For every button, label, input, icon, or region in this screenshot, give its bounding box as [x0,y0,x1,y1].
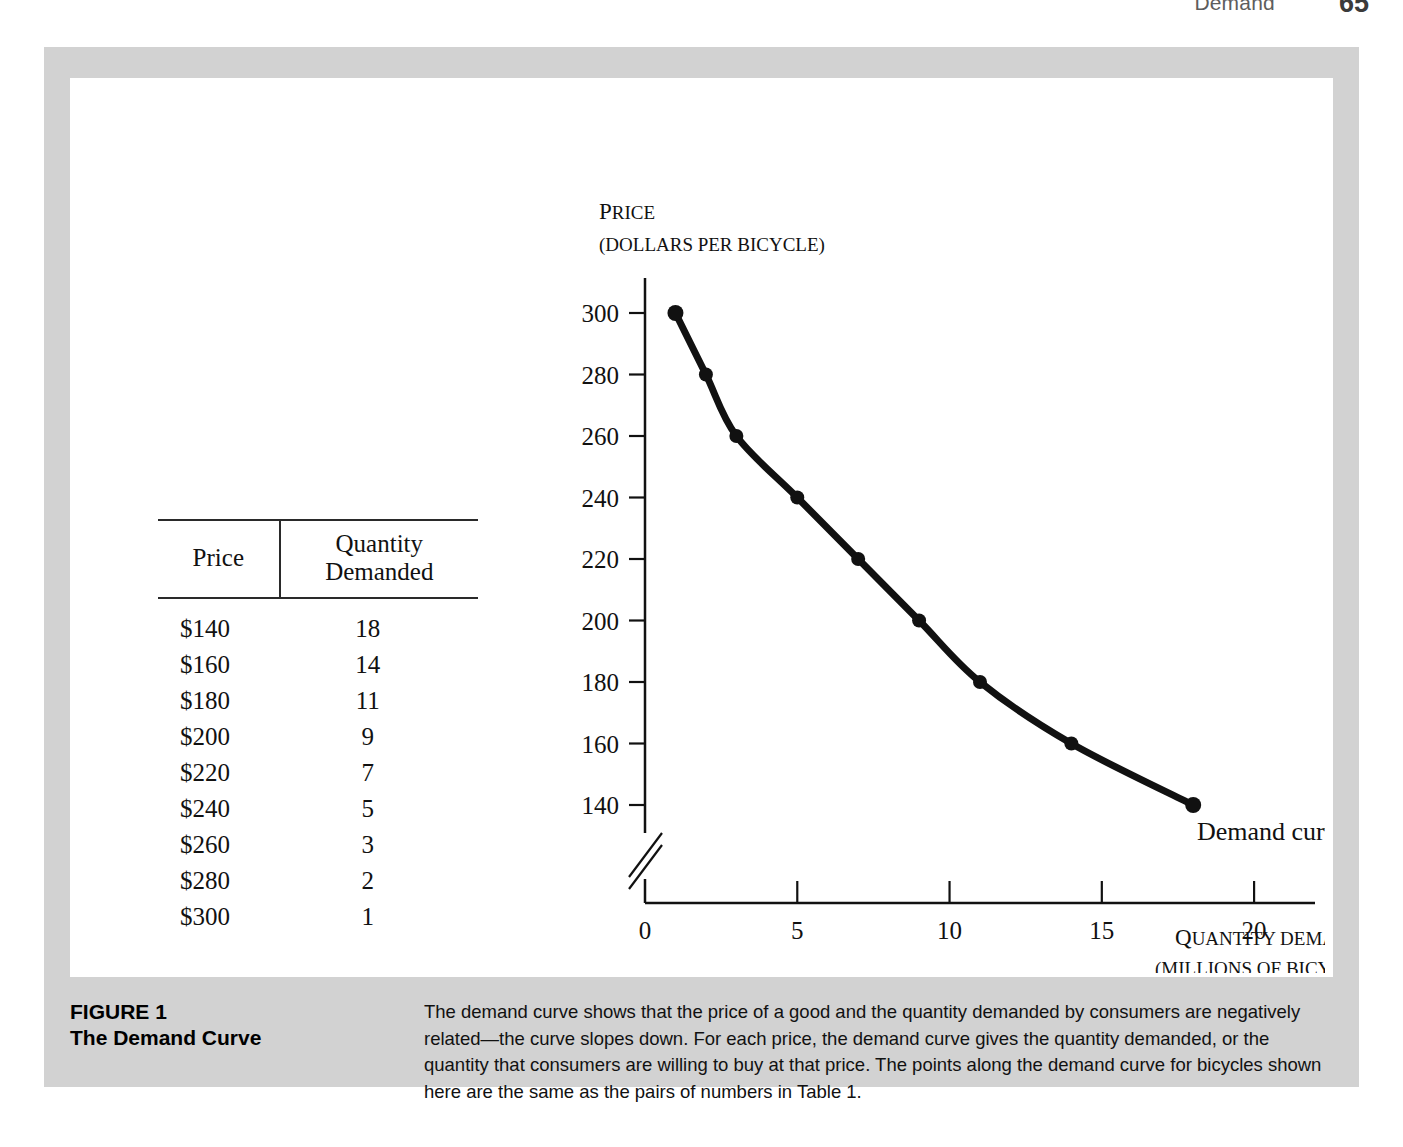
figure-title: The Demand Curve [70,1025,400,1051]
y-axis-title: PRICE [599,199,655,224]
x-axis-title: QUANTITY DEMANDED [1175,925,1325,950]
cell-quantity: 14 [280,647,478,683]
table-row: $2009 [158,719,478,755]
x-tick-label: 0 [639,917,652,944]
table-row: $18011 [158,683,478,719]
demand-schedule-table: Price Quantity Demanded $14018$16014$180… [158,521,478,935]
y-tick-label: 180 [582,669,620,696]
table-row: $2405 [158,791,478,827]
cell-price: $200 [158,719,280,755]
column-header-price: Price [158,521,280,598]
data-point-markers [667,305,1201,813]
table-row: $3001 [158,899,478,935]
page-number: 65 [1339,0,1369,19]
data-point [790,491,804,505]
cell-quantity: 2 [280,863,478,899]
cell-quantity: 3 [280,827,478,863]
table: Price Quantity Demanded $14018$16014$180… [158,521,478,935]
demand-curve-chart: PRICE (DOLLARS PER BICYCLE) 140160180200… [525,133,1325,973]
cell-price: $140 [158,598,280,647]
demand-curve-label: Demand curve [1197,817,1325,846]
x-tick-label: 10 [937,917,962,944]
cell-price: $240 [158,791,280,827]
y-tick-label: 160 [582,731,620,758]
table-row: $16014 [158,647,478,683]
y-tick-label: 220 [582,546,620,573]
x-axis-units: (MILLIONS OF BICYCLES) [1155,958,1325,973]
cell-price: $220 [158,755,280,791]
cell-price: $180 [158,683,280,719]
table-head: Price Quantity Demanded [158,521,478,598]
y-axis-units: (DOLLARS PER BICYCLE) [599,234,825,256]
cell-quantity: 9 [280,719,478,755]
figure-caption-band: FIGURE 1 The Demand Curve The demand cur… [44,977,1359,1087]
table-row: $2603 [158,827,478,863]
data-point [1064,737,1078,751]
cell-price: $160 [158,647,280,683]
cell-price: $300 [158,899,280,935]
data-point [912,614,926,628]
data-point [973,675,987,689]
cell-quantity: 1 [280,899,478,935]
cell-quantity: 7 [280,755,478,791]
cell-price: $280 [158,863,280,899]
running-head: Demand 65 [0,0,1403,20]
data-point [851,552,865,566]
y-tick-label: 260 [582,423,620,450]
y-tick-label: 300 [582,300,620,327]
figure-caption-title: FIGURE 1 The Demand Curve [70,999,400,1051]
data-point [1185,797,1201,813]
table-row: $2802 [158,863,478,899]
y-axis-ticks: 140160180200220240260280300 [582,300,646,819]
running-head-title: Demand [1194,0,1275,15]
x-tick-label: 5 [791,917,804,944]
data-point [699,368,713,382]
table-row: $2207 [158,755,478,791]
figure-container: Price Quantity Demanded $14018$16014$180… [44,47,1359,1087]
table-top-rule [158,519,478,521]
y-tick-label: 280 [582,362,620,389]
cell-quantity: 11 [280,683,478,719]
cell-price: $260 [158,827,280,863]
figure-panel: Price Quantity Demanded $14018$16014$180… [70,78,1333,977]
table-header-row: Price Quantity Demanded [158,521,478,598]
chart-svg: PRICE (DOLLARS PER BICYCLE) 140160180200… [525,133,1325,973]
y-tick-label: 240 [582,485,620,512]
cell-quantity: 18 [280,598,478,647]
data-point [667,305,683,321]
figure-label: FIGURE 1 [70,999,400,1025]
x-axis-ticks: 05101520 [639,881,1267,944]
y-tick-label: 140 [582,792,620,819]
column-header-quantity: Quantity Demanded [280,521,478,598]
demand-curve-line [675,313,1193,805]
table-row: $14018 [158,598,478,647]
cell-quantity: 5 [280,791,478,827]
x-tick-label: 15 [1089,917,1114,944]
y-tick-label: 200 [582,608,620,635]
figure-caption-body: The demand curve shows that the price of… [424,999,1329,1105]
table-body: $14018$16014$18011$2009$2207$2405$2603$2… [158,598,478,935]
data-point [729,429,743,443]
